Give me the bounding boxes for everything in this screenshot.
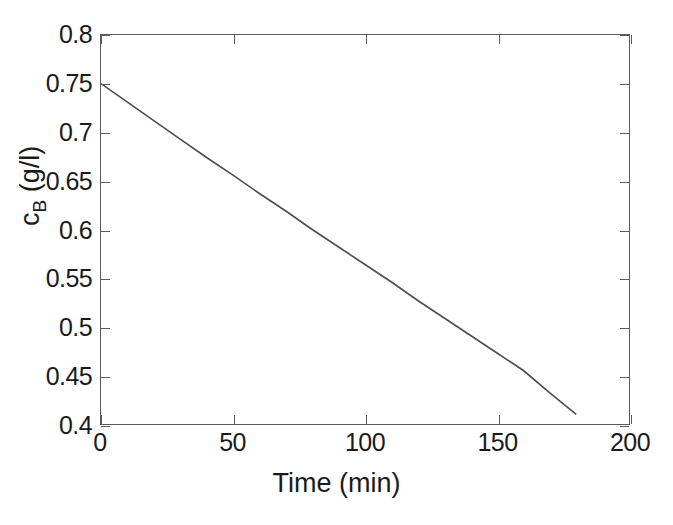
y-tick-mark	[620, 231, 629, 232]
x-tick-label: 150	[443, 430, 553, 455]
y-tick-mark	[101, 133, 110, 134]
y-tick-mark	[620, 182, 629, 183]
x-tick-mark	[366, 415, 367, 424]
y-tick-mark	[620, 279, 629, 280]
y-tick-mark	[620, 133, 629, 134]
y-tick-mark	[101, 328, 110, 329]
x-tick-mark	[499, 35, 500, 44]
x-tick-mark	[631, 415, 632, 424]
y-tick-mark	[620, 328, 629, 329]
y-tick-mark	[101, 84, 110, 85]
x-tick-mark	[631, 35, 632, 44]
x-axis-title: Time (min)	[0, 470, 673, 497]
y-tick-label: 0.45	[0, 364, 92, 389]
y-tick-mark	[620, 377, 629, 378]
y-axis-title-base: c	[15, 212, 45, 226]
x-tick-mark	[101, 415, 102, 424]
chart-figure: 0.40.450.50.550.60.650.70.750.8 05010015…	[0, 0, 673, 525]
y-tick-mark	[101, 35, 110, 36]
x-tick-mark	[499, 415, 500, 424]
x-tick-mark	[366, 35, 367, 44]
y-tick-mark	[620, 84, 629, 85]
y-tick-mark	[620, 35, 629, 36]
x-tick-label: 50	[178, 430, 288, 455]
y-tick-mark	[101, 426, 110, 427]
x-tick-mark	[234, 415, 235, 424]
series-line-cb	[101, 84, 576, 415]
x-tick-mark	[234, 35, 235, 44]
y-tick-mark	[101, 279, 110, 280]
x-tick-label: 200	[575, 430, 673, 455]
y-tick-mark	[620, 426, 629, 427]
data-line-svg	[101, 35, 629, 424]
y-tick-mark	[101, 377, 110, 378]
x-tick-label: 100	[310, 430, 420, 455]
y-axis-title-units: (g/l)	[15, 146, 45, 200]
x-tick-label: 0	[45, 430, 155, 455]
y-tick-mark	[101, 231, 110, 232]
plot-area	[100, 34, 630, 425]
y-axis-title: cB (g/l)	[17, 36, 49, 336]
y-tick-mark	[101, 182, 110, 183]
x-tick-mark	[101, 35, 102, 44]
y-axis-title-subscript: B	[29, 200, 50, 213]
